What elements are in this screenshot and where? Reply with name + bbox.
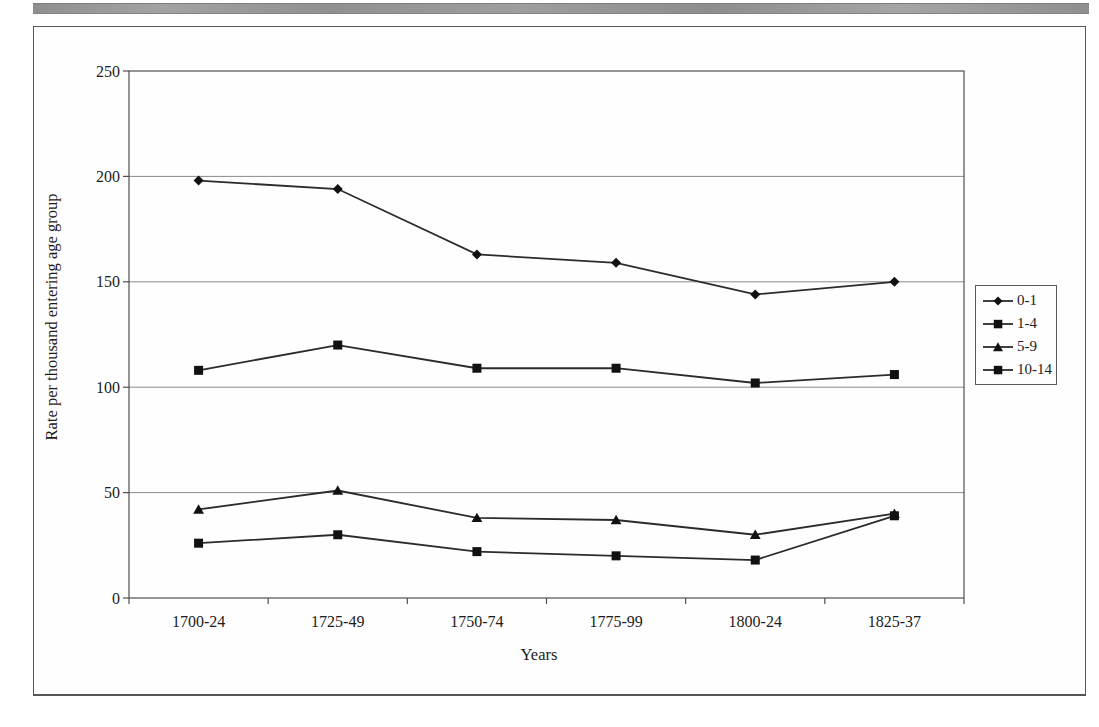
- data-marker-0-1: [889, 277, 899, 287]
- data-marker-1-4: [890, 370, 899, 379]
- legend-item-5-9: 5-9: [982, 338, 1056, 355]
- scanned-book-page: 0501001502002501700-241725-491750-741775…: [0, 0, 1099, 727]
- data-marker-5-9: [332, 485, 343, 494]
- data-marker-10-14: [194, 539, 203, 548]
- series-line-1-4: [199, 345, 895, 383]
- data-marker-0-1: [472, 249, 482, 259]
- data-marker-1-4: [472, 364, 481, 373]
- legend-square-icon: [982, 363, 1014, 377]
- legend-triangle-icon: [982, 340, 1014, 354]
- data-marker-10-14: [890, 511, 899, 520]
- data-marker-10-14: [472, 547, 481, 556]
- series-line-10-14: [199, 516, 895, 560]
- legend-diamond-icon: [982, 294, 1014, 308]
- legend-square-icon: [982, 317, 1014, 331]
- y-axis-title: Rate per thousand entering age group: [42, 194, 62, 441]
- chart-legend: 0-11-45-910-14: [975, 285, 1057, 385]
- x-tick-label: 1750-74: [450, 613, 503, 630]
- data-marker-0-1: [750, 289, 760, 299]
- y-tick-label: 0: [112, 590, 120, 607]
- data-marker-0-1: [194, 176, 204, 186]
- x-tick-label: 1775-99: [589, 613, 642, 630]
- legend-item-0-1: 0-1: [982, 292, 1056, 309]
- legend-item-10-14: 10-14: [982, 361, 1056, 378]
- x-tick-label: 1800-24: [729, 613, 782, 630]
- legend-label: 0-1: [1017, 292, 1037, 309]
- y-tick-label: 150: [96, 273, 120, 290]
- data-marker-10-14: [333, 530, 342, 539]
- data-marker-0-1: [611, 258, 621, 268]
- y-tick-label: 200: [96, 168, 120, 185]
- data-marker-1-4: [194, 366, 203, 375]
- mortality-line-chart: 0501001502002501700-241725-491750-741775…: [34, 27, 1085, 693]
- legend-label: 5-9: [1017, 338, 1037, 355]
- x-axis-title: Years: [521, 645, 558, 665]
- x-tick-label: 1825-37: [868, 613, 921, 630]
- series-line-5-9: [199, 490, 895, 534]
- data-marker-10-14: [612, 551, 621, 560]
- data-marker-1-4: [751, 378, 760, 387]
- data-marker-0-1: [333, 184, 343, 194]
- y-tick-label: 100: [96, 379, 120, 396]
- page-top-rule: [33, 3, 1089, 14]
- legend-item-1-4: 1-4: [982, 315, 1056, 332]
- data-marker-10-14: [751, 556, 760, 565]
- data-marker-1-4: [612, 364, 621, 373]
- x-tick-label: 1725-49: [311, 613, 364, 630]
- legend-label: 10-14: [1017, 361, 1052, 378]
- data-marker-1-4: [333, 341, 342, 350]
- legend-label: 1-4: [1017, 315, 1037, 332]
- x-tick-label: 1700-24: [172, 613, 225, 630]
- figure-box: 0501001502002501700-241725-491750-741775…: [33, 26, 1086, 696]
- y-tick-label: 50: [104, 484, 120, 501]
- series-line-0-1: [199, 181, 895, 295]
- y-tick-label: 250: [96, 63, 120, 80]
